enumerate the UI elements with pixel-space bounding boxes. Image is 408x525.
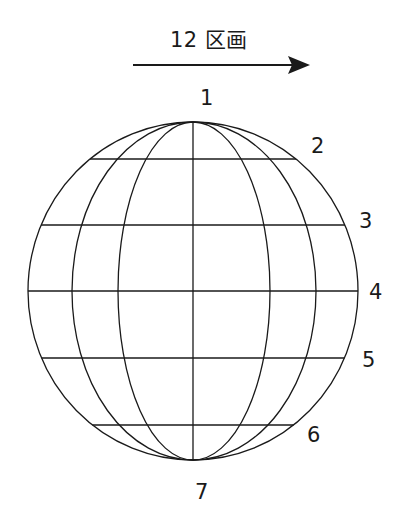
label-4: 4 [369,282,382,303]
globe [28,122,358,460]
direction-arrow-icon [133,56,310,74]
label-2: 2 [311,136,324,157]
label-3: 3 [359,211,372,232]
label-6: 6 [307,425,320,446]
globe-diagram [0,0,408,525]
label-1: 1 [200,88,213,109]
label-7: 7 [195,482,208,503]
label-5: 5 [362,350,375,371]
